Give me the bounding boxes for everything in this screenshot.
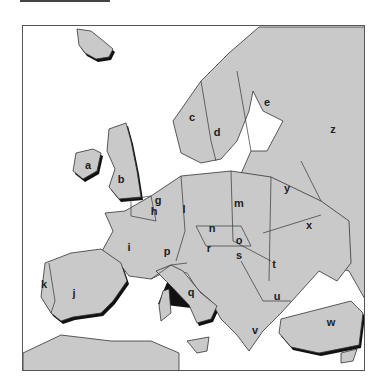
country-label-u: u [274, 290, 281, 302]
country-label-o: o [236, 234, 243, 246]
country-label-q: q [188, 286, 195, 298]
country-label-t: t [272, 258, 276, 270]
iceland [77, 29, 113, 59]
country-label-k: k [41, 278, 47, 290]
map-frame [22, 25, 365, 371]
country-label-m: m [234, 197, 244, 209]
country-label-a: a [85, 159, 91, 171]
country-label-w: w [327, 316, 336, 328]
turkey [279, 301, 363, 353]
country-label-n: n [209, 222, 216, 234]
country-label-r: r [207, 242, 211, 254]
corsica-sardinia [159, 289, 171, 321]
country-label-z: z [330, 123, 336, 135]
country-label-h: h [151, 205, 158, 217]
country-label-e: e [264, 96, 270, 108]
country-label-l: l [182, 203, 185, 215]
europe-map [23, 26, 365, 371]
north-africa [23, 335, 179, 371]
top-edge-bar [20, 0, 110, 2]
country-label-y: y [284, 182, 290, 194]
sicily [187, 337, 209, 353]
country-label-d: d [214, 126, 221, 138]
country-label-x: x [306, 219, 312, 231]
country-label-i: i [127, 241, 130, 253]
iberia [41, 249, 127, 321]
country-label-p: p [164, 245, 171, 257]
country-label-s: s [236, 249, 242, 261]
country-label-b: b [118, 173, 125, 185]
country-label-v: v [252, 324, 258, 336]
country-label-j: j [72, 287, 75, 299]
country-label-c: c [189, 111, 195, 123]
